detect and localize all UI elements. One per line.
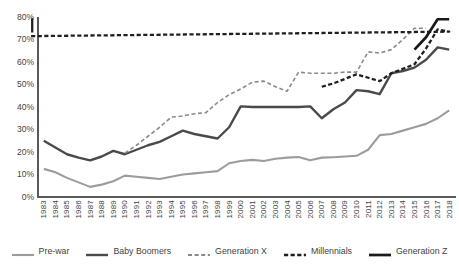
x-tick-label: 2011 bbox=[364, 200, 373, 218]
x-tick-label: 1987 bbox=[86, 200, 95, 219]
x-tick-label: 2008 bbox=[329, 200, 338, 219]
series-line-pre-war bbox=[44, 110, 449, 187]
x-tick-label: 1986 bbox=[74, 200, 83, 219]
y-tick-label: 20% bbox=[2, 148, 34, 157]
legend-item-pre-war[interactable]: Pre-war bbox=[12, 246, 70, 256]
legend-label: Generation Z bbox=[396, 246, 447, 256]
y-tick-label: 10% bbox=[2, 170, 34, 179]
x-tick-label: 2006 bbox=[306, 200, 315, 219]
line-solid-dark-icon bbox=[369, 246, 391, 256]
line-solid-medium-icon bbox=[86, 246, 108, 256]
y-tick-label: 50% bbox=[2, 80, 34, 89]
x-tick-label: 2001 bbox=[248, 200, 257, 219]
x-tick-label: 2017 bbox=[433, 200, 442, 219]
legend-item-millennials[interactable]: Millennials bbox=[284, 246, 352, 256]
x-tick-label: 1994 bbox=[167, 200, 176, 219]
line-dashed-light-icon bbox=[188, 246, 210, 256]
series-line-baby-boomers bbox=[44, 47, 449, 160]
series-line-generation-z bbox=[414, 19, 449, 49]
x-tick-label: 2010 bbox=[352, 200, 361, 219]
x-tick-label: 2003 bbox=[271, 200, 280, 219]
x-tick-label: 1997 bbox=[201, 200, 210, 219]
x-tick-label: 2000 bbox=[236, 200, 245, 219]
x-tick-label: 1984 bbox=[51, 200, 60, 219]
x-tick-label: 1992 bbox=[144, 200, 153, 219]
legend-item-generation-z[interactable]: Generation Z bbox=[369, 246, 447, 256]
x-tick-label: 1995 bbox=[178, 200, 187, 219]
y-axis-tick-labels: 80%70%60%50%40%30%20%10%0% bbox=[0, 0, 34, 266]
x-tick-label: 1991 bbox=[132, 200, 141, 219]
legend-item-generation-x[interactable]: Generation X bbox=[188, 246, 267, 256]
x-axis-tick-labels: 1983198419851986198719881989199019911992… bbox=[38, 200, 455, 240]
x-tick-label: 1983 bbox=[39, 200, 48, 219]
line-chart: 80%70%60%50%40%30%20%10%0% 1983198419851… bbox=[0, 0, 459, 266]
x-tick-label: 2018 bbox=[445, 200, 454, 219]
y-tick-label: 40% bbox=[2, 103, 34, 112]
x-tick-label: 1998 bbox=[213, 200, 222, 219]
x-tick-label: 1990 bbox=[120, 200, 129, 219]
series-lines bbox=[38, 17, 455, 197]
x-tick-label: 1993 bbox=[155, 200, 164, 219]
x-tick-label: 1985 bbox=[62, 200, 71, 219]
legend-item-baby-boomers[interactable]: Baby Boomers bbox=[86, 246, 171, 256]
x-tick-label: 1988 bbox=[97, 200, 106, 219]
x-tick-label: 2015 bbox=[410, 200, 419, 219]
x-tick-label: 2002 bbox=[259, 200, 268, 219]
line-dashed-dark-icon bbox=[284, 246, 306, 256]
x-tick-label: 2012 bbox=[375, 200, 384, 219]
x-tick-label: 1989 bbox=[109, 200, 118, 219]
series-line-millennials bbox=[32, 19, 449, 87]
legend-label: Baby Boomers bbox=[113, 246, 171, 256]
x-tick-label: 1996 bbox=[190, 200, 199, 219]
x-tick-label: 2014 bbox=[398, 200, 407, 219]
y-tick-label: 80% bbox=[2, 13, 34, 22]
x-tick-label: 2007 bbox=[317, 200, 326, 219]
plot-area bbox=[38, 17, 455, 197]
y-tick-label: 30% bbox=[2, 125, 34, 134]
x-tick-label: 2013 bbox=[387, 200, 396, 219]
x-tick-label: 2005 bbox=[294, 200, 303, 219]
y-tick-label: 60% bbox=[2, 58, 34, 67]
y-tick-label: 0% bbox=[2, 193, 34, 202]
legend-label: Millennials bbox=[311, 246, 352, 256]
x-tick-label: 2004 bbox=[283, 200, 292, 219]
legend-label: Generation X bbox=[215, 246, 267, 256]
y-tick-label: 70% bbox=[2, 35, 34, 44]
x-tick-label: 1999 bbox=[225, 200, 234, 219]
legend-label: Pre-war bbox=[39, 246, 70, 256]
x-tick-label: 2016 bbox=[422, 200, 431, 219]
chart-legend: Pre-warBaby BoomersGeneration XMillennia… bbox=[0, 243, 459, 259]
x-tick-label: 2009 bbox=[340, 200, 349, 219]
line-solid-light-icon bbox=[12, 246, 34, 256]
